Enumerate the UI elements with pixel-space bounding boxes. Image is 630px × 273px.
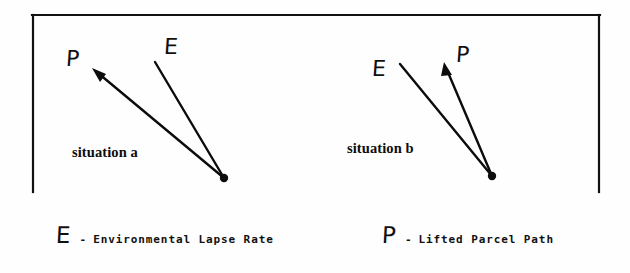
situation-b-caption: situation b: [347, 141, 414, 156]
situation-a-parcel-symbol: P: [65, 48, 80, 70]
situation-b-parcel-arrowhead: [441, 62, 452, 76]
legend-dash-p: -: [405, 234, 412, 245]
situation-a-group: [92, 62, 228, 182]
situation-b-environment-symbol: E: [371, 58, 386, 80]
legend-description-parcel: Lifted Parcel Path: [419, 234, 554, 245]
legend-symbol-p: P: [381, 224, 396, 247]
situation-a-environment-symbol: E: [163, 36, 178, 58]
situation-b-environment-ray: [400, 64, 492, 176]
legend-entry-environmental: E - Environmental Lapse Rate: [56, 224, 274, 247]
situation-a-caption: situation a: [72, 145, 138, 160]
situation-a-parcel-arrowhead: [92, 68, 106, 82]
situation-b-origin-dot: [488, 172, 496, 180]
situation-a-environment-ray: [155, 62, 224, 178]
legend-symbol-e: E: [55, 224, 71, 247]
situation-a-origin-dot: [220, 174, 228, 182]
legend-description-environmental: Environmental Lapse Rate: [93, 234, 274, 245]
situation-b-group: [400, 62, 496, 180]
situation-b-parcel-symbol: P: [455, 44, 470, 66]
situation-b-parcel-ray: [447, 70, 492, 176]
legend-dash-e: -: [80, 234, 87, 245]
legend-entry-parcel: P - Lifted Parcel Path: [382, 224, 554, 247]
figure-canvas: P E E P situation a situation b E - Envi…: [0, 0, 630, 273]
situation-a-parcel-ray: [98, 73, 224, 178]
